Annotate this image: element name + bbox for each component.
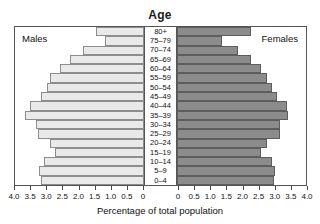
axis-tick — [46, 186, 47, 190]
axis-tick-label: 3.5 — [25, 191, 36, 203]
female-bar — [177, 176, 274, 185]
male-bar-row — [15, 166, 144, 175]
female-bar-row — [177, 157, 306, 166]
axis-tick-label: 1.5 — [89, 191, 100, 203]
female-bar — [177, 36, 222, 45]
female-bar — [177, 55, 251, 64]
axis-tick — [30, 186, 31, 190]
age-group-label: 25–29 — [145, 129, 176, 138]
axis-tick-label: 3.0 — [269, 191, 280, 203]
x-axis-left-labels: 4.03.53.02.52.01.51.00.50 — [14, 191, 143, 203]
female-bar — [177, 111, 288, 120]
axis-tick-label: 0.5 — [121, 191, 132, 203]
axis-tick-label: 1.0 — [205, 191, 216, 203]
female-bar-row — [177, 101, 306, 110]
female-bar — [177, 92, 277, 101]
male-bar — [47, 83, 144, 92]
female-bar-row — [177, 166, 306, 175]
female-bar — [177, 73, 267, 82]
female-bar-row — [177, 73, 306, 82]
axis-tick — [226, 186, 227, 190]
age-group-label: 60–64 — [145, 64, 176, 73]
axis-tick-label: 0 — [176, 191, 180, 203]
female-bar — [177, 46, 238, 55]
age-group-label: 55–59 — [145, 73, 176, 82]
female-bar — [177, 129, 280, 138]
male-bar-row — [15, 157, 144, 166]
male-bar — [39, 166, 144, 175]
male-bar — [41, 92, 144, 101]
age-group-label: 50–54 — [145, 83, 176, 92]
male-bar — [38, 129, 144, 138]
male-bar — [44, 157, 144, 166]
male-bar — [55, 148, 144, 157]
male-bar — [50, 139, 144, 148]
female-bar — [177, 157, 272, 166]
axis-tick — [291, 186, 292, 190]
axis-tick — [275, 186, 276, 190]
female-bar-row — [177, 64, 306, 73]
axis-tick — [143, 186, 144, 190]
male-bar — [105, 36, 144, 45]
male-bar-row — [15, 64, 144, 73]
axis-tick-label: 2.0 — [237, 191, 248, 203]
axis-tick — [95, 186, 96, 190]
female-bar-row — [177, 120, 306, 129]
male-bar-row — [15, 101, 144, 110]
male-bar-row — [15, 55, 144, 64]
axis-tick — [79, 186, 80, 190]
female-bar — [177, 148, 261, 157]
male-bar-row — [15, 129, 144, 138]
female-bar — [177, 139, 267, 148]
male-bar-row — [15, 176, 144, 185]
clipped-header-text — [0, 0, 320, 2]
axis-tick-label: 0 — [141, 191, 145, 203]
male-bar-row — [15, 73, 144, 82]
axis-tick-label: 1.0 — [105, 191, 116, 203]
axis-tick-label: 0.5 — [189, 191, 200, 203]
male-bar — [30, 101, 144, 110]
plot-area: 80+75–7970–7465–6960–6455–5950–5445–4940… — [14, 26, 307, 186]
female-bar-row — [177, 148, 306, 157]
axis-tick-label: 2.0 — [73, 191, 84, 203]
male-bar-row — [15, 120, 144, 129]
age-group-label: 70–74 — [145, 46, 176, 55]
female-bar-row — [177, 83, 306, 92]
age-group-label: 35–39 — [145, 111, 176, 120]
female-bar — [177, 64, 261, 73]
age-group-label: 15–19 — [145, 148, 176, 157]
axis-tick-label: 3.5 — [285, 191, 296, 203]
axis-tick — [243, 186, 244, 190]
age-group-label: 0–4 — [145, 176, 176, 185]
female-bar-row — [177, 46, 306, 55]
age-group-label: 10–14 — [145, 157, 176, 166]
axis-tick-label: 4.0 — [8, 191, 19, 203]
female-bar-row — [177, 129, 306, 138]
male-bar — [50, 73, 144, 82]
age-group-label: 80+ — [145, 27, 176, 36]
axis-tick — [127, 186, 128, 190]
male-bar-row — [15, 111, 144, 120]
male-bar-row — [15, 92, 144, 101]
x-axis-title: Percentage of total population — [0, 205, 320, 216]
axis-tick-label: 2.5 — [253, 191, 264, 203]
female-bar — [177, 83, 272, 92]
females-panel — [177, 27, 306, 185]
male-bar — [25, 111, 144, 120]
age-group-label: 75–79 — [145, 36, 176, 45]
axis-tick — [62, 186, 63, 190]
male-bar — [36, 120, 144, 129]
axis-tick-label: 4.0 — [301, 191, 312, 203]
male-bar — [70, 55, 144, 64]
axis-tick-label: 2.5 — [57, 191, 68, 203]
age-group-label: 30–34 — [145, 120, 176, 129]
axis-tick — [111, 186, 112, 190]
axis-tick — [259, 186, 260, 190]
legend-males: Males — [22, 33, 47, 44]
x-axis-right-labels: 00.51.01.52.02.53.03.54.0 — [178, 191, 307, 203]
female-bar-row — [177, 111, 306, 120]
axis-tick — [210, 186, 211, 190]
age-group-label: 65–69 — [145, 55, 176, 64]
female-bar-row — [177, 92, 306, 101]
male-bar-row — [15, 46, 144, 55]
